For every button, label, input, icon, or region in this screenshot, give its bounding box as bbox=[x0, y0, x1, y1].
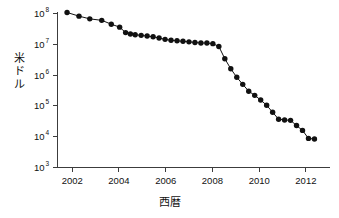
y-tick-label-1e6-mantissa: 10 bbox=[34, 70, 45, 81]
x-tick-label-2010: 2010 bbox=[249, 175, 270, 186]
log-line-chart: 10 8 10 7 10 6 10 5 10 4 10 3 2002 2004 … bbox=[0, 0, 339, 218]
y-axis-title-char-2: ド bbox=[11, 65, 27, 78]
data-point bbox=[228, 66, 233, 71]
data-point bbox=[87, 16, 92, 21]
data-point bbox=[123, 30, 128, 35]
y-tick-label-1e3-exponent: 3 bbox=[46, 160, 50, 167]
x-tick-label-2006: 2006 bbox=[155, 175, 176, 186]
data-point bbox=[270, 110, 275, 115]
data-point bbox=[252, 93, 257, 98]
data-point bbox=[156, 35, 161, 40]
data-point bbox=[300, 128, 305, 133]
y-tick-label-1e6-exponent: 6 bbox=[46, 68, 50, 75]
data-point bbox=[264, 103, 269, 108]
data-point bbox=[210, 41, 215, 46]
series-markers-cost bbox=[64, 10, 317, 142]
x-tick-label-2002: 2002 bbox=[62, 175, 83, 186]
y-tick-label-1e7-exponent: 7 bbox=[46, 37, 50, 44]
y-tick-label-1e8-mantissa: 10 bbox=[34, 8, 45, 19]
data-point bbox=[162, 37, 167, 42]
x-tick-label-2012: 2012 bbox=[295, 175, 316, 186]
data-point bbox=[168, 38, 173, 43]
data-point bbox=[76, 13, 81, 18]
data-point bbox=[204, 40, 209, 45]
data-point bbox=[128, 31, 133, 36]
data-point bbox=[276, 117, 281, 122]
chart-axes bbox=[58, 12, 331, 168]
data-point bbox=[99, 18, 104, 23]
data-point bbox=[282, 117, 287, 122]
data-point bbox=[216, 44, 221, 49]
y-tick-label-1e4-mantissa: 10 bbox=[34, 131, 45, 142]
y-axis-title: 米 ド ル bbox=[11, 52, 27, 91]
y-tick-label-1e4-exponent: 4 bbox=[46, 129, 50, 136]
data-point bbox=[198, 40, 203, 45]
data-point bbox=[234, 75, 239, 80]
data-point bbox=[246, 89, 251, 94]
data-point bbox=[306, 136, 311, 141]
data-point bbox=[240, 82, 245, 87]
data-point bbox=[294, 123, 299, 128]
data-point bbox=[180, 39, 185, 44]
data-point bbox=[174, 38, 179, 43]
x-tick-labels: 2002 2004 2006 2008 2010 2012 bbox=[62, 175, 317, 186]
y-tick-label-1e5-mantissa: 10 bbox=[34, 100, 45, 111]
data-point bbox=[312, 136, 317, 141]
data-point bbox=[258, 97, 263, 102]
y-tick-marks bbox=[53, 14, 58, 168]
data-point bbox=[109, 21, 114, 26]
data-point bbox=[132, 32, 137, 37]
data-point bbox=[192, 40, 197, 45]
x-tick-marks bbox=[72, 168, 306, 173]
y-axis-title-char-3: ル bbox=[11, 78, 27, 91]
data-point bbox=[288, 118, 293, 123]
data-point bbox=[144, 33, 149, 38]
data-point bbox=[150, 34, 155, 39]
data-point bbox=[117, 24, 122, 29]
y-tick-labels: 10 8 10 7 10 6 10 5 10 4 10 3 bbox=[34, 6, 50, 173]
y-tick-label-1e8-exponent: 8 bbox=[46, 6, 50, 13]
chart-figure: 10 8 10 7 10 6 10 5 10 4 10 3 2002 2004 … bbox=[0, 0, 339, 218]
x-tick-label-2008: 2008 bbox=[202, 175, 223, 186]
y-axis-title-char-1: 米 bbox=[11, 52, 27, 65]
x-axis-title: 西暦 bbox=[0, 193, 339, 209]
data-point bbox=[138, 33, 143, 38]
y-tick-label-1e5-exponent: 5 bbox=[46, 98, 50, 105]
y-tick-label-1e7-mantissa: 10 bbox=[34, 39, 45, 50]
y-tick-label-1e3-mantissa: 10 bbox=[34, 162, 45, 173]
data-point bbox=[222, 56, 227, 61]
data-point bbox=[64, 10, 69, 15]
data-point bbox=[186, 39, 191, 44]
x-tick-label-2004: 2004 bbox=[108, 175, 129, 186]
